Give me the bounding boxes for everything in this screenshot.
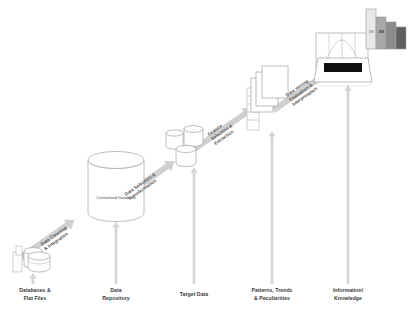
stage-icon-knowledge [314,9,406,86]
kdd-process-diagram: Centralized Database [0,0,413,318]
up-arrow-knowledge [344,85,352,284]
cylinder-target-right [184,126,203,147]
cylinder-target-bottom [176,145,196,166]
bar-1 [366,9,376,49]
stage-icon-target [166,126,203,167]
stage-label-sources-line2: Flat Files [24,295,47,301]
vertical-arrows-group [29,85,352,284]
up-arrow-patterns [268,131,276,284]
bar-3 [386,22,396,49]
stage-label-repository: Data Repository [102,287,129,301]
cylinder-front-sources [28,252,50,272]
up-arrow-target [190,167,198,284]
monitor-screen [324,63,362,72]
stage-label-repository-line1: Data [110,287,121,293]
bar-4 [396,27,406,49]
bar-chart-icon [366,9,406,49]
stage-label-patterns-line2: & Peculiarities [254,295,290,301]
stage-label-sources: Databases & Flat Files [19,287,51,301]
monitor-icon [314,58,372,86]
diagram-canvas: Centralized Database [0,0,413,318]
stage-label-repository-line2: Repository [102,295,129,301]
stage-labels-group: Databases & Flat Files Data Repository T… [19,287,363,301]
stage-label-target: Target Data [180,291,208,297]
stage-icon-patterns [247,66,288,130]
up-arrow-repository [112,222,120,284]
stage-label-knowledge: Information/ Knowledge [333,287,364,301]
stage-label-patterns-line1: Patterns, Trends [252,287,293,293]
stage-label-knowledge-line2: Knowledge [334,295,362,301]
stage-label-target-line1: Target Data [180,291,208,297]
stage-label-patterns: Patterns, Trends & Peculiarities [252,287,293,301]
bar-chart-marker-a [369,30,374,33]
up-arrow-sources [29,273,37,284]
stage-label-sources-line1: Databases & [19,287,51,293]
bar-chart-marker-b [379,30,384,33]
stage-label-knowledge-line1: Information/ [333,287,364,293]
